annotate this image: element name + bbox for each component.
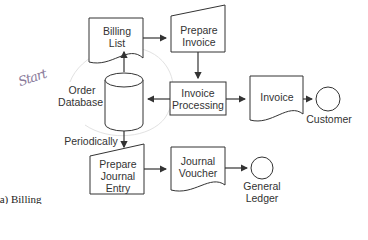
invoice-processing-label: Invoice Processing bbox=[170, 87, 226, 111]
invoice-label: Invoice bbox=[252, 91, 302, 103]
prepare-invoice-label: Prepare Invoice bbox=[174, 24, 224, 48]
periodically-label: Periodically bbox=[62, 135, 120, 147]
label-line: Entry bbox=[92, 182, 144, 194]
label-line: Invoice bbox=[174, 36, 224, 48]
label-line: Prepare bbox=[174, 24, 224, 36]
label-line: Order bbox=[55, 84, 103, 96]
customer-label: Customer bbox=[304, 113, 354, 125]
customer-shape bbox=[316, 87, 340, 111]
order-database-shape bbox=[105, 73, 143, 131]
order-database-label: Order Database bbox=[55, 84, 103, 108]
prepare-journal-entry-label: Prepare Journal Entry bbox=[92, 158, 144, 194]
label-line: Billing bbox=[97, 25, 137, 37]
label-line: Processing bbox=[170, 99, 226, 111]
label-line: Invoice bbox=[170, 87, 226, 99]
billing-list-label: Billing List bbox=[97, 25, 137, 49]
label-line: Journal bbox=[92, 170, 144, 182]
journal-voucher-label: Journal Voucher bbox=[172, 155, 224, 179]
label-line: List bbox=[97, 37, 137, 49]
label-line: General bbox=[238, 180, 286, 192]
label-line: Prepare bbox=[92, 158, 144, 170]
label-line: Ledger bbox=[238, 192, 286, 204]
general-ledger-label: General Ledger bbox=[238, 180, 286, 204]
general-ledger-shape bbox=[251, 157, 273, 179]
figure-caption: (a) Billing bbox=[0, 193, 42, 204]
label-line: Journal bbox=[172, 155, 224, 167]
label-line: Database bbox=[55, 96, 103, 108]
label-line: Voucher bbox=[172, 167, 224, 179]
